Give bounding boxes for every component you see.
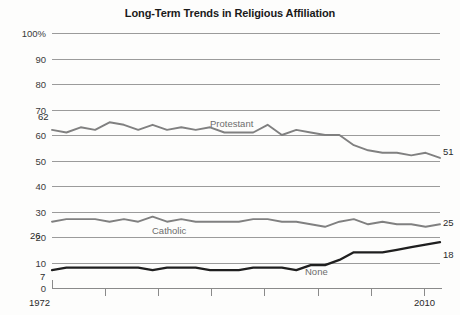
gridline-20 xyxy=(52,237,440,238)
xaxis-end-label: 2010 xyxy=(414,297,435,308)
xaxis-start-label: 1972 xyxy=(29,297,50,308)
catholic-series-label: Catholic xyxy=(152,226,186,236)
xtick-1987 xyxy=(211,289,212,296)
protestant-end-value: 51 xyxy=(443,147,454,157)
ytick-label-0: 0 xyxy=(6,284,46,294)
gridline-30 xyxy=(52,212,440,213)
protestant-start-value: 62 xyxy=(38,112,49,122)
gridline-60 xyxy=(52,135,440,136)
ytick-label-40: 40 xyxy=(6,182,46,192)
chart-container: Long-Term Trends in Religious Affiliatio… xyxy=(0,0,460,315)
y-axis-start-tick xyxy=(52,280,53,289)
gridline-90 xyxy=(52,59,440,60)
ytick-label-50: 50 xyxy=(6,157,46,167)
gridline-40 xyxy=(52,186,440,187)
catholic-end-value: 25 xyxy=(443,218,454,228)
gridline-70 xyxy=(52,110,440,111)
xtick-1977 xyxy=(105,289,106,296)
chart-title: Long-Term Trends in Religious Affiliatio… xyxy=(0,7,460,19)
xtick-2007 xyxy=(424,289,425,296)
gridline-50 xyxy=(52,161,440,162)
ytick-label-10: 10 xyxy=(6,259,46,269)
ytick-label-30: 30 xyxy=(6,208,46,218)
none-end-value: 18 xyxy=(443,250,454,260)
xtick-1982 xyxy=(158,289,159,296)
none-start-value: 7 xyxy=(40,272,45,282)
xtick-2002 xyxy=(371,289,372,296)
xtick-1992 xyxy=(264,289,265,296)
gridline-10 xyxy=(52,263,440,264)
ytick-label-100: 100% xyxy=(6,29,46,39)
ytick-label-80: 80 xyxy=(6,80,46,90)
gridline-80 xyxy=(52,84,440,85)
plot-area xyxy=(52,33,440,288)
ytick-label-60: 60 xyxy=(6,131,46,141)
gridline-100 xyxy=(52,33,440,34)
x-axis-line xyxy=(52,288,442,289)
none-series-label: None xyxy=(305,267,328,277)
ytick-label-90: 90 xyxy=(6,55,46,65)
protestant-series-label: Protestant xyxy=(210,119,253,129)
xtick-1997 xyxy=(318,289,319,296)
catholic-start-value: 26 xyxy=(30,231,41,241)
